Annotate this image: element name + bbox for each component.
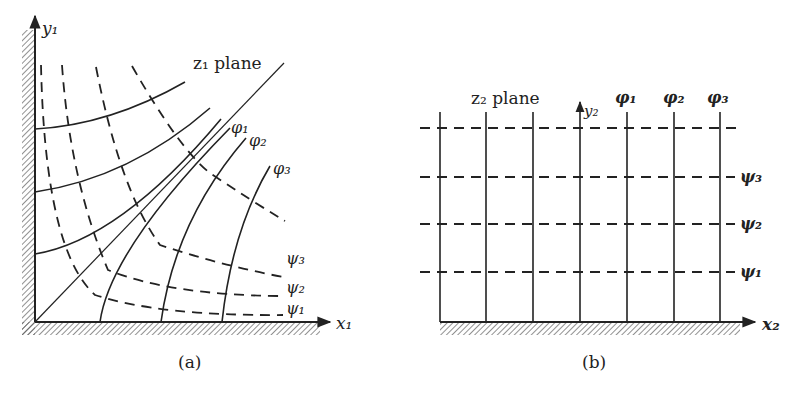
caption-b: (b) <box>582 352 606 372</box>
z1-plane-label: z₁ plane <box>193 53 262 73</box>
caption-a: (a) <box>178 352 201 372</box>
psi1-label-b: ψ₁ <box>740 262 762 281</box>
phi3-label-a: φ₃ <box>273 159 291 178</box>
x1-axis-label: x₁ <box>336 313 352 333</box>
psi2-label-a: ψ₂ <box>286 278 305 297</box>
psi3-label-b: ψ₃ <box>740 167 762 186</box>
z2-plane-label: z₂ plane <box>471 88 540 108</box>
panel-b: z₂ plane y₂ φ₁ φ₂ φ₃ ψ₃ ψ₂ ψ₁ x₂ (b) <box>420 88 780 372</box>
x2-axis-label: x₂ <box>761 314 780 334</box>
panel-a: y₁ z₁ plane φ₁ φ₂ φ₃ ψ₃ ψ₂ ψ₁ x₁ (a) <box>22 16 352 372</box>
phi-curves <box>100 128 270 322</box>
floor-hatch <box>440 322 740 335</box>
phi2-label-b: φ₂ <box>663 88 684 107</box>
psi1-label-a: ψ₁ <box>286 299 305 318</box>
wall-hatch-vertical <box>22 30 35 335</box>
y2-axis-label: y₂ <box>583 102 599 120</box>
phi3-label-b: φ₃ <box>707 88 728 107</box>
y1-axis-label: y₁ <box>41 18 58 38</box>
diagonal-line <box>35 63 284 322</box>
phi1-label-b: φ₁ <box>615 88 636 107</box>
phi1-label-a: φ₁ <box>231 118 249 137</box>
psi2-label-b: ψ₂ <box>740 214 762 233</box>
wall-hatch-horizontal <box>22 322 320 335</box>
psi3-label-a: ψ₃ <box>286 249 305 268</box>
conformal-map-figure: y₁ z₁ plane φ₁ φ₂ φ₃ ψ₃ ψ₂ ψ₁ x₁ (a) <box>0 0 794 393</box>
phi2-label-a: φ₂ <box>249 131 267 150</box>
